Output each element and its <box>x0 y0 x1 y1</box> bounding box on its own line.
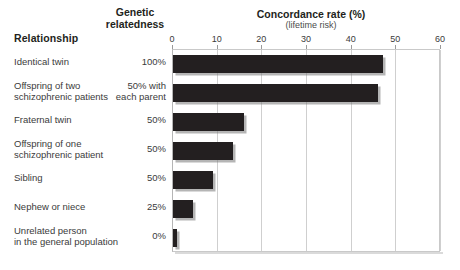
column-header-relationship: Relationship <box>14 32 78 44</box>
row-relatedness-3: 50% <box>96 143 166 155</box>
row-relatedness-line1: 50% <box>96 143 166 155</box>
schizophrenia-concordance-chart: Relationship Genetic relatedness Concord… <box>0 0 460 270</box>
row-relatedness-line1: 100% <box>96 56 166 68</box>
row-relatedness-0: 100% <box>96 56 166 68</box>
row-relatedness-1: 50% witheach parent <box>96 80 166 103</box>
row-relatedness-line1: 25% <box>96 201 166 213</box>
bar-row-5 <box>173 200 193 218</box>
genetic-relatedness-line1: Genetic <box>104 7 166 19</box>
bar-row-0 <box>173 55 383 73</box>
chart-subtitle: (lifetime risk) <box>176 20 446 30</box>
gridline-40 <box>351 50 352 251</box>
gridline-30 <box>306 50 307 251</box>
row-relatedness-line2: each parent <box>96 91 166 103</box>
row-relatedness-line1: 50% <box>96 114 166 126</box>
plot-area <box>172 49 440 252</box>
bar-row-1 <box>173 84 378 102</box>
row-relatedness-line1: 50% <box>96 172 166 184</box>
x-tick-mark-60 <box>440 45 441 49</box>
x-tick-label-50: 50 <box>390 34 400 44</box>
row-relatedness-6: 0% <box>96 230 166 242</box>
axis-shadow <box>175 252 443 254</box>
row-relatedness-5: 25% <box>96 201 166 213</box>
bar-row-6 <box>173 229 177 247</box>
row-relatedness-4: 50% <box>96 172 166 184</box>
row-relatedness-line1: 0% <box>96 230 166 242</box>
chart-title: Concordance rate (%) <box>176 8 446 20</box>
row-relatedness-2: 50% <box>96 114 166 126</box>
row-relatedness-line1: 50% with <box>96 80 166 92</box>
gridline-20 <box>261 50 262 251</box>
x-tick-label-30: 30 <box>301 34 311 44</box>
x-tick-label-40: 40 <box>346 34 356 44</box>
column-header-genetic-relatedness: Genetic relatedness <box>104 7 166 30</box>
x-tick-label-10: 10 <box>212 34 222 44</box>
x-tick-label-20: 20 <box>256 34 266 44</box>
x-tick-label-60: 60 <box>435 34 445 44</box>
bar-row-3 <box>173 142 233 160</box>
bar-row-4 <box>173 171 213 189</box>
bar-row-2 <box>173 113 244 131</box>
x-tick-label-0: 0 <box>169 34 174 44</box>
genetic-relatedness-line2: relatedness <box>104 19 166 31</box>
gridline-50 <box>395 50 396 251</box>
gridline-60 <box>440 50 441 251</box>
